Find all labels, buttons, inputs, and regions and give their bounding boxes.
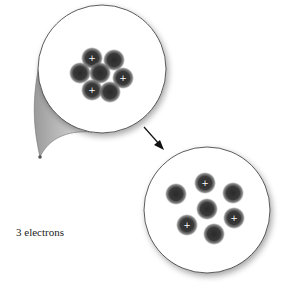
plus-icon: +	[119, 73, 127, 83]
neutron	[222, 182, 244, 204]
plus-icon: +	[88, 53, 96, 63]
expanded-nucleus-circle: +++	[144, 147, 270, 273]
plus-icon: +	[201, 178, 209, 188]
atom-diagram: +++ +++	[0, 0, 288, 291]
plus-icon: +	[88, 85, 96, 95]
plus-icon: +	[183, 220, 191, 230]
neutron	[203, 223, 225, 245]
plus-icon: +	[230, 213, 238, 223]
point-source	[38, 155, 42, 159]
neutron	[99, 81, 121, 103]
compact-nucleus-circle: +++	[38, 5, 166, 133]
neutron	[196, 198, 218, 220]
arrow-icon	[144, 127, 164, 150]
neutron	[165, 183, 187, 205]
electron-count-label: 3 electrons	[16, 226, 64, 238]
